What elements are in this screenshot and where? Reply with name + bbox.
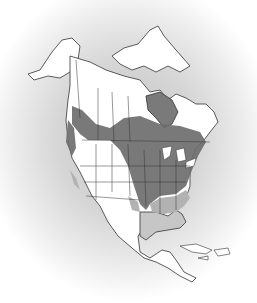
arctic-islands: [112, 26, 190, 72]
range-map: [0, 0, 257, 303]
north-america-map: [0, 0, 257, 303]
gulf-of-mexico: [140, 210, 186, 240]
caribbean-islands: [180, 244, 230, 260]
